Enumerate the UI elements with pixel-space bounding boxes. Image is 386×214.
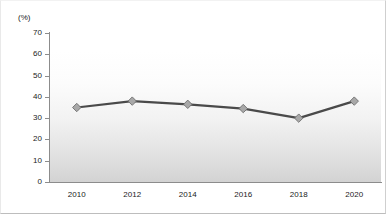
data-point-2010: [73, 103, 81, 111]
line-series: [1, 1, 386, 214]
data-point-2012: [128, 97, 136, 105]
chart-container: (%) 010203040506070 20102012201420162018…: [0, 0, 386, 214]
data-point-2020: [350, 97, 358, 105]
data-point-2014: [184, 100, 192, 108]
series-polyline: [77, 101, 355, 118]
data-point-2016: [239, 104, 247, 112]
data-point-2018: [295, 114, 303, 122]
series-markers: [73, 97, 359, 122]
